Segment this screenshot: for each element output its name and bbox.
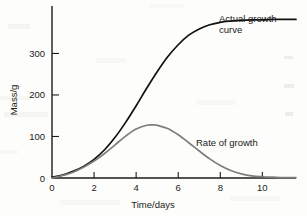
rate-of-growth-label: Rate of growth: [196, 137, 258, 148]
x-axis-tick-label: 2: [91, 182, 96, 193]
x-axis-tick-label: 8: [218, 182, 223, 193]
chart-axes: [52, 6, 296, 178]
x-axis-tick-label: 0: [49, 182, 54, 193]
x-axis-title: Time/days: [131, 199, 175, 210]
y-axis-title: Mass/g: [8, 85, 19, 116]
y-axis-tick-label: 0: [40, 173, 45, 184]
x-axis-tick-label: 6: [176, 182, 181, 193]
y-axis-ticks: 0100200300: [29, 48, 59, 184]
x-axis-tick-label: 10: [257, 182, 268, 193]
y-axis-tick-label: 200: [29, 89, 45, 100]
series-line: [52, 125, 296, 178]
y-axis-tick-label: 300: [29, 48, 45, 59]
chart-series: [52, 19, 296, 178]
actual-growth-label: curve: [219, 24, 242, 35]
line-chart: 0246810 0100200300 Actual growthcurveRat…: [0, 0, 307, 216]
chart-annotations: Actual growthcurveRate of growth: [196, 13, 277, 148]
actual-growth-label: Actual growth: [219, 13, 277, 24]
x-axis-tick-label: 4: [133, 182, 138, 193]
y-axis-tick-label: 100: [29, 131, 45, 142]
growth-curve-figure: 0246810 0100200300 Actual growthcurveRat…: [0, 0, 307, 216]
series-line: [52, 19, 296, 177]
x-axis-ticks: 0246810: [49, 172, 267, 193]
